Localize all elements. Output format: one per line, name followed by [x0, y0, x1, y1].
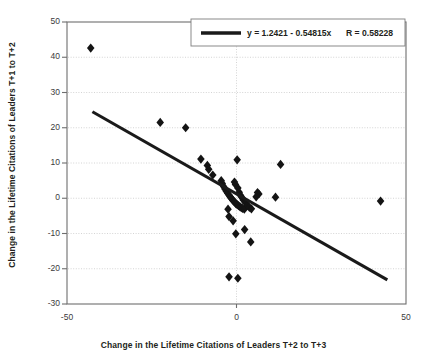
data-point	[87, 43, 95, 52]
legend-equation: y = 1.2421 - 0.54815x	[247, 28, 331, 38]
data-point	[156, 118, 164, 127]
y-tick-label: -20	[30, 263, 60, 273]
plot-canvas	[0, 0, 427, 357]
data-point	[247, 237, 255, 246]
y-tick-label: -10	[30, 228, 60, 238]
regression-line	[92, 112, 387, 280]
y-tick-label: 10	[30, 157, 60, 167]
data-points-group	[87, 43, 384, 282]
y-tick-label: -30	[30, 298, 60, 308]
data-point	[182, 123, 190, 132]
data-point	[234, 274, 242, 283]
data-point	[241, 225, 249, 234]
y-tick-label: 40	[30, 51, 60, 61]
scatter-plot-figure: Change in the Lifetime Citations of Lead…	[0, 0, 427, 357]
data-point	[225, 272, 233, 281]
y-tick-label: 50	[30, 16, 60, 26]
data-point	[277, 160, 285, 169]
y-tick-label: 30	[30, 87, 60, 97]
y-tick-label: 0	[30, 192, 60, 202]
y-tick-label: 20	[30, 122, 60, 132]
data-point	[272, 193, 280, 202]
x-tick-label: 0	[217, 312, 257, 322]
data-point	[224, 205, 232, 214]
data-point	[197, 155, 205, 164]
x-tick-label: -50	[47, 312, 87, 322]
legend-r-value: R = 0.58228	[346, 28, 393, 38]
x-tick-label: 50	[386, 312, 426, 322]
data-point	[232, 229, 240, 238]
